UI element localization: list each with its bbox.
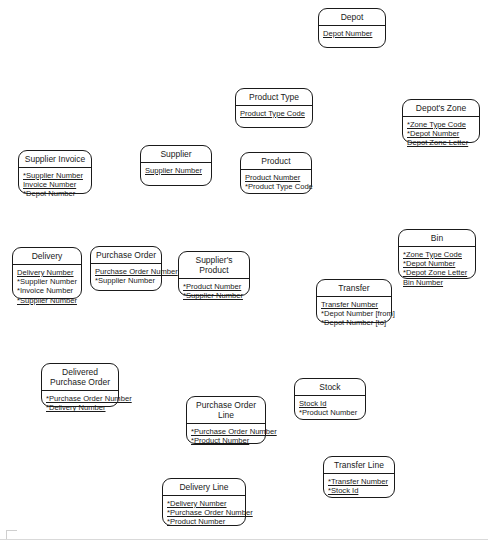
entity-box-delivered-purchase-order[interactable]: Delivered Purchase Order*Purchase Order … — [41, 363, 119, 407]
entity-attribute: Supplier Number — [145, 166, 211, 175]
entity-box-supplier[interactable]: SupplierSupplier Number — [140, 145, 212, 186]
attribute-label: *Purchase Order Number — [167, 508, 253, 517]
entity-attributes-suppliers-product: *Product Number*Supplier Number — [179, 279, 249, 303]
attribute-label: *Purchase Order Number — [46, 394, 132, 403]
attribute-label: Transfer Number — [321, 300, 378, 309]
entity-title-depots-zone: Depot's Zone — [403, 100, 479, 117]
entity-box-delivery[interactable]: DeliveryDelivery Number*Supplier Number*… — [12, 247, 82, 299]
entity-title-purchase-order: Purchase Order — [91, 247, 161, 264]
entity-attribute: *Product Number — [191, 436, 265, 445]
entity-box-delivery-line[interactable]: Delivery Line*Delivery Number*Purchase O… — [162, 478, 246, 526]
entity-attributes-stock: Stock Id*Product Number — [295, 396, 365, 420]
entity-title-delivered-purchase-order: Delivered Purchase Order — [42, 364, 118, 391]
entity-attribute: *Supplier Number — [95, 276, 161, 285]
entity-attribute: *Depot Number [to] — [321, 318, 391, 327]
entity-attributes-product-type: Product Type Code — [236, 106, 312, 127]
attribute-label: Supplier Number — [145, 166, 202, 175]
entity-title-stock: Stock — [295, 379, 365, 396]
attribute-label: *Depot Number — [407, 129, 459, 138]
attribute-label: *Depot Number — [403, 259, 455, 268]
page-corner-mark — [6, 530, 17, 539]
entity-attribute: *Depot Number — [23, 189, 91, 198]
entity-title-delivery-line: Delivery Line — [163, 479, 245, 496]
attribute-label: *Depot Number [from] — [321, 309, 395, 318]
attribute-label: Invoice Number — [23, 180, 76, 189]
entity-box-supplier-invoice[interactable]: Supplier Invoice*Supplier NumberInvoice … — [18, 150, 92, 194]
attribute-label: Depot Zone Letter — [407, 138, 468, 147]
entity-box-suppliers-product[interactable]: Supplier's Product*Product Number*Suppli… — [178, 251, 250, 296]
attribute-label: Bin Number — [403, 278, 443, 287]
entity-attributes-delivery: Delivery Number*Supplier Number*Invoice … — [13, 265, 81, 308]
entity-box-stock[interactable]: StockStock Id*Product Number — [294, 378, 366, 420]
entity-title-supplier: Supplier — [141, 146, 211, 163]
attribute-label: *Supplier Number — [183, 291, 243, 300]
entity-attribute: *Zone Type Code — [407, 120, 479, 129]
entity-attribute: *Delivery Number — [46, 403, 118, 412]
entity-attribute: Bin Number — [403, 278, 475, 287]
attribute-label: *Supplier Number — [17, 296, 77, 305]
entity-attributes-depot: Depot Number — [319, 26, 385, 47]
entity-box-product-type[interactable]: Product TypeProduct Type Code — [235, 88, 313, 128]
entity-attribute: Stock Id — [299, 399, 365, 408]
entity-title-product-type: Product Type — [236, 89, 312, 106]
attribute-label: *Purchase Order Number — [191, 427, 277, 436]
attribute-label: *Supplier Number — [17, 277, 77, 286]
attribute-label: *Depot Number [to] — [321, 318, 386, 327]
entity-attribute: *Transfer Number — [328, 477, 394, 486]
attribute-label: Depot Number — [323, 29, 372, 38]
attribute-label: *Delivery Number — [46, 403, 106, 412]
entity-attribute: *Purchase Order Number — [167, 508, 245, 517]
entity-attribute: *Purchase Order Number — [191, 427, 265, 436]
attribute-label: Product Type Code — [240, 109, 305, 118]
entity-attribute: *Depot Number — [407, 129, 479, 138]
entity-title-supplier-invoice: Supplier Invoice — [19, 151, 91, 168]
entity-title-bin: Bin — [399, 230, 475, 247]
entity-box-bin[interactable]: Bin*Zone Type Code*Depot Number*Depot Zo… — [398, 229, 476, 279]
entity-attributes-transfer: Transfer Number*Depot Number [from]*Depo… — [317, 297, 391, 331]
entity-attribute: Invoice Number — [23, 180, 91, 189]
attribute-label: Product Number — [245, 173, 300, 182]
entity-attribute: *Stock Id — [328, 486, 394, 495]
entity-title-purchase-order-line: Purchase Order Line — [187, 397, 265, 424]
attribute-label: *Supplier Number — [95, 276, 155, 285]
entity-attribute: *Product Number — [183, 282, 249, 291]
attribute-label: Purchase Order Number — [95, 267, 178, 276]
entity-attributes-supplier: Supplier Number — [141, 163, 211, 185]
entity-title-product: Product — [241, 153, 311, 170]
attribute-label: *Invoice Number — [17, 286, 73, 295]
entity-box-depot[interactable]: DepotDepot Number — [318, 8, 386, 48]
attribute-label: *Depot Number — [23, 189, 75, 198]
entity-attribute: *Supplier Number — [17, 296, 81, 305]
er-diagram-canvas: DepotDepot NumberProduct TypeProduct Typ… — [0, 0, 488, 540]
attribute-label: *Product Type Code — [245, 182, 313, 191]
entity-box-purchase-order[interactable]: Purchase OrderPurchase Order Number*Supp… — [90, 246, 162, 291]
entity-attribute: *Product Number — [299, 408, 365, 417]
attribute-label: *Supplier Number — [23, 171, 83, 180]
entity-box-product[interactable]: ProductProduct Number*Product Type Code — [240, 152, 312, 194]
entity-attributes-bin: *Zone Type Code*Depot Number*Depot Zone … — [399, 247, 475, 290]
entity-attributes-delivery-line: *Delivery Number*Purchase Order Number*P… — [163, 496, 245, 530]
entity-attribute: *Product Number — [167, 517, 245, 526]
entity-attribute: Depot Number — [323, 29, 385, 38]
entity-attribute: *Purchase Order Number — [46, 394, 118, 403]
entity-attribute: Product Type Code — [240, 109, 312, 118]
entity-attributes-transfer-line: *Transfer Number*Stock Id — [324, 474, 394, 498]
entity-attribute: Depot Zone Letter — [407, 138, 479, 147]
entity-attribute: Delivery Number — [17, 268, 81, 277]
entity-box-transfer-line[interactable]: Transfer Line*Transfer Number*Stock Id — [323, 456, 395, 498]
entity-attributes-product: Product Number*Product Type Code — [241, 170, 311, 194]
entity-box-depots-zone[interactable]: Depot's Zone*Zone Type Code*Depot Number… — [402, 99, 480, 143]
entity-attributes-supplier-invoice: *Supplier NumberInvoice Number*Depot Num… — [19, 168, 91, 202]
entity-attribute: Purchase Order Number — [95, 267, 161, 276]
attribute-label: *Product Number — [299, 408, 357, 417]
entity-title-transfer: Transfer — [317, 280, 391, 297]
entity-attributes-delivered-purchase-order: *Purchase Order Number*Delivery Number — [42, 391, 118, 415]
entity-title-depot: Depot — [319, 9, 385, 26]
attribute-label: *Zone Type Code — [403, 250, 462, 259]
entity-attribute: *Supplier Number — [17, 277, 81, 286]
entity-box-transfer[interactable]: TransferTransfer Number*Depot Number [fr… — [316, 279, 392, 323]
entity-attribute: *Depot Number [from] — [321, 309, 391, 318]
attribute-label: *Transfer Number — [328, 477, 388, 486]
entity-attribute: *Supplier Number — [23, 171, 91, 180]
entity-box-purchase-order-line[interactable]: Purchase Order Line*Purchase Order Numbe… — [186, 396, 266, 444]
